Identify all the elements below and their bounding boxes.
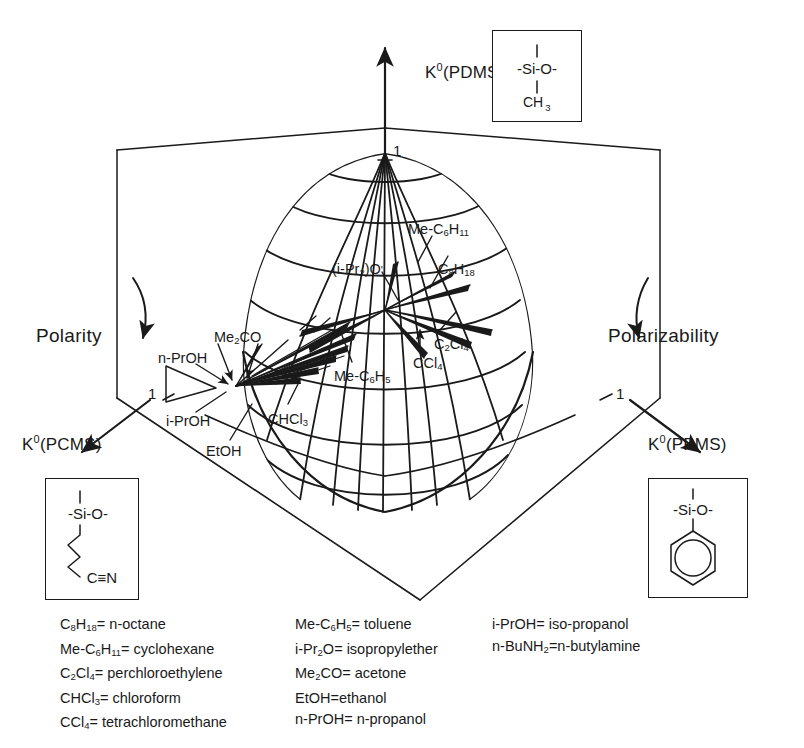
axis-label-pcms: K0(PCMS): [22, 434, 102, 454]
legend-item: C2Cl4= perchloroethylene: [60, 663, 227, 688]
pdms-structure-drawing: -Si-O- CH 3: [493, 31, 581, 121]
structure-box-ppms: -Si-O-: [648, 478, 748, 598]
species-label-i-proh: i-PrOH: [166, 414, 210, 429]
legend-column-3: i-PrOH= iso-propanol n-BuNH2=n-butylamin…: [492, 614, 640, 660]
svg-text:3: 3: [545, 102, 550, 113]
legend-item: Me-C6H5= toluene: [295, 614, 438, 639]
legend-item: CCl4= tetrachloromethane: [60, 712, 227, 737]
species-label-c2cl4: C2Cl4: [434, 337, 469, 353]
tick-label-pdms: 1: [393, 143, 401, 159]
svg-text:C≡N: C≡N: [87, 569, 117, 586]
species-label-me-c6h11: Me-C6H11: [408, 222, 469, 238]
legend-block: C8H18= n-octane Me-C6H11= cyclohexane C2…: [0, 614, 804, 734]
tick-label-pcms: 1: [148, 386, 156, 402]
legend-column-2: Me-C6H5= toluene i-Pr2O= isopropylether …: [295, 614, 438, 731]
figure-canvas: K0(PDMS) 1 K0(PCMS) 1 K0(PPMS) 1 Polarit…: [0, 0, 804, 748]
legend-item: i-Pr2O= isopropylether: [295, 639, 438, 664]
legend-item: Me2CO= acetone: [295, 663, 438, 688]
legend-item: n-PrOH= n-propanol: [295, 709, 438, 731]
structure-box-pcms: -Si-O- C≡N: [45, 478, 139, 600]
species-label-ccl4: CCl4: [413, 356, 442, 372]
species-label-n-proh: n-PrOH: [158, 351, 207, 366]
tick-label-ppms: 1: [616, 386, 624, 402]
tick-marks: [163, 160, 612, 400]
species-label-etoh: EtOH: [206, 444, 241, 459]
legend-item: C8H18= n-octane: [60, 614, 227, 639]
pcms-structure-drawing: -Si-O- C≡N: [46, 479, 138, 599]
legend-item: CHCl3= chloroform: [60, 688, 227, 713]
species-label-me-c6h5: Me-C6H5: [334, 369, 391, 385]
legend-item: n-BuNH2=n-butylamine: [492, 636, 640, 661]
direction-label-polarity: Polarity: [36, 326, 102, 346]
species-label-chcl3: CHCl3: [268, 412, 308, 428]
polarity-curved-arrow: [133, 278, 146, 338]
svg-text:-Si-O-: -Si-O-: [517, 60, 557, 77]
legend-item: i-PrOH= iso-propanol: [492, 614, 640, 636]
species-label-ipr2o: (i-Pr2)O': [332, 262, 383, 278]
direction-label-polarizability: Polarizability: [608, 326, 719, 346]
svg-text:-Si-O-: -Si-O-: [673, 501, 713, 518]
legend-item: Me-C6H11= cyclohexane: [60, 639, 227, 664]
species-label-c8h18: C8H18: [438, 262, 475, 278]
svg-text:CH: CH: [523, 94, 543, 110]
svg-text:-Si-O-: -Si-O-: [68, 505, 108, 522]
legend-column-1: C8H18= n-octane Me-C6H11= cyclohexane C2…: [60, 614, 227, 737]
species-label-me2co: Me2CO: [214, 330, 261, 346]
ppms-structure-drawing: -Si-O-: [649, 479, 747, 597]
structure-box-pdms: -Si-O- CH 3: [492, 30, 582, 122]
axis-label-ppms: K0(PPMS): [648, 434, 727, 454]
legend-item: EtOH=ethanol: [295, 688, 438, 710]
